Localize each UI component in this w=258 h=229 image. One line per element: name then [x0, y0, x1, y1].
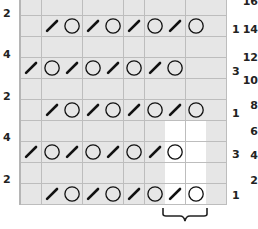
chart-cell — [62, 37, 83, 58]
chart-cell — [124, 37, 145, 58]
row-number-label: 6 — [250, 126, 258, 138]
chart-cell — [62, 100, 83, 121]
chart-cell — [42, 37, 63, 58]
row-number-label: 2 — [250, 175, 258, 187]
slash-decrease-icon — [103, 58, 123, 78]
knitting-chart: 2424213131161412108642 — [0, 0, 258, 229]
chart-cell — [206, 0, 227, 16]
chart-cell — [206, 58, 227, 79]
chart-cell — [103, 184, 124, 205]
chart-cell — [206, 37, 227, 58]
yarn-over-icon — [103, 16, 123, 36]
chart-cell — [145, 79, 166, 100]
chart-cell — [21, 142, 42, 163]
slash-decrease-icon — [124, 16, 144, 36]
chart-cell — [21, 163, 42, 184]
chart-cell — [165, 16, 186, 37]
chart-cell — [124, 79, 145, 100]
chart-cell — [206, 16, 227, 37]
chart-cell — [145, 16, 166, 37]
chart-cell — [124, 121, 145, 142]
chart-cell — [103, 142, 124, 163]
yarn-over-icon — [42, 58, 62, 78]
chart-cell — [62, 163, 83, 184]
chart-cell — [83, 142, 104, 163]
chart-cell — [42, 16, 63, 37]
chart-cell — [62, 142, 83, 163]
yarn-over-icon — [62, 16, 82, 36]
slash-decrease-icon — [42, 16, 62, 36]
chart-cell — [83, 79, 104, 100]
chart-cell — [165, 142, 186, 163]
yarn-over-icon — [83, 58, 103, 78]
chart-cell — [145, 184, 166, 205]
chart-cell — [145, 163, 166, 184]
right-row-label: 1 — [232, 24, 240, 36]
row-number-label: 16 — [243, 0, 258, 8]
slash-decrease-icon — [21, 58, 41, 78]
row-number-label: 4 — [250, 150, 258, 162]
chart-cell — [103, 0, 124, 16]
chart-cell — [103, 121, 124, 142]
chart-cell — [42, 79, 63, 100]
yarn-over-icon — [103, 100, 123, 120]
chart-cell — [145, 121, 166, 142]
chart-cell — [21, 0, 42, 16]
slash-decrease-icon — [145, 142, 165, 162]
chart-cell — [165, 121, 186, 142]
stitch-grid — [19, 0, 227, 205]
right-row-label: 3 — [232, 149, 240, 161]
slash-decrease-icon — [21, 142, 41, 162]
chart-cell — [62, 16, 83, 37]
chart-cell — [206, 142, 227, 163]
chart-cell — [165, 100, 186, 121]
yarn-over-icon — [186, 16, 206, 36]
yarn-over-icon — [83, 142, 103, 162]
chart-cell — [206, 163, 227, 184]
slash-decrease-icon — [83, 16, 103, 36]
yarn-over-icon — [186, 184, 206, 204]
yarn-over-icon — [145, 184, 165, 204]
slash-decrease-icon — [124, 184, 144, 204]
chart-cell — [206, 121, 227, 142]
chart-cell — [165, 79, 186, 100]
chart-cell — [145, 142, 166, 163]
chart-cell — [83, 163, 104, 184]
slash-decrease-icon — [62, 58, 82, 78]
chart-cell — [165, 0, 186, 16]
chart-cell — [21, 121, 42, 142]
chart-cell — [21, 184, 42, 205]
row-number-label: 14 — [243, 24, 258, 36]
chart-cell — [103, 163, 124, 184]
chart-cell — [186, 121, 207, 142]
chart-cell — [206, 79, 227, 100]
yarn-over-icon — [62, 100, 82, 120]
chart-cell — [186, 0, 207, 16]
yarn-over-icon — [124, 58, 144, 78]
chart-cell — [83, 58, 104, 79]
slash-decrease-icon — [42, 184, 62, 204]
chart-cell — [42, 184, 63, 205]
chart-cell — [165, 184, 186, 205]
slash-decrease-icon — [165, 100, 185, 120]
row-number-label: 10 — [243, 75, 258, 87]
slash-decrease-icon — [124, 100, 144, 120]
left-row-label: 2 — [3, 8, 11, 20]
yarn-over-icon — [186, 100, 206, 120]
chart-cell — [42, 142, 63, 163]
chart-cell — [103, 58, 124, 79]
chart-cell — [83, 0, 104, 16]
chart-cell — [145, 0, 166, 16]
left-row-label: 2 — [3, 174, 11, 186]
chart-cell — [145, 58, 166, 79]
row-number-label: 12 — [243, 52, 258, 64]
chart-cell — [21, 58, 42, 79]
chart-cell — [186, 16, 207, 37]
yarn-over-icon — [165, 142, 185, 162]
right-row-label: 1 — [232, 190, 240, 202]
yarn-over-icon — [62, 184, 82, 204]
slash-decrease-icon — [145, 58, 165, 78]
chart-cell — [165, 37, 186, 58]
chart-cell — [62, 58, 83, 79]
chart-cell — [62, 79, 83, 100]
